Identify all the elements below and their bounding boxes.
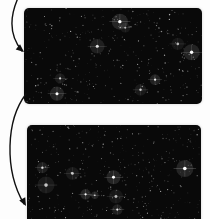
starfield-top-stars	[24, 8, 202, 104]
starfield-panel-bottom[interactable]	[27, 125, 201, 219]
screenshot-canvas	[0, 0, 210, 219]
starfield-bottom-stars	[27, 125, 201, 219]
starfield-panel-top[interactable]	[24, 8, 202, 104]
